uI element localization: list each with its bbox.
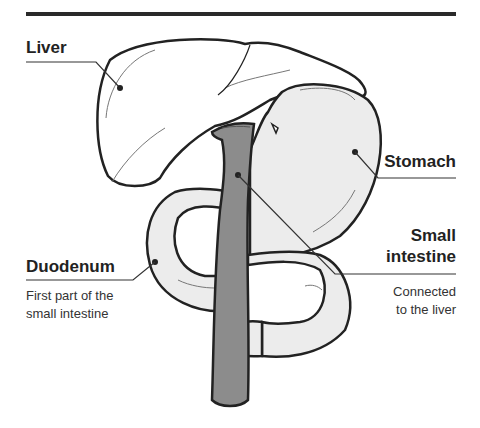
stomach-shape [250, 84, 381, 257]
duodenum-description-line2: small intestine [26, 305, 108, 323]
duodenum-label: Duodenum [26, 257, 115, 277]
small-intestine-label-line2: intestine [386, 247, 456, 267]
duodenum-description-line1: First part of the [26, 287, 113, 305]
small-intestine-tube [212, 123, 254, 406]
liver-label: Liver [26, 38, 67, 58]
small-intestine-description-line2: to the liver [396, 301, 456, 319]
small-intestine-description-line1: Connected [393, 283, 456, 301]
small-intestine-label-line1: Small [411, 226, 456, 246]
stomach-label: Stomach [384, 152, 456, 172]
digestive-organs-illustration [0, 0, 480, 428]
